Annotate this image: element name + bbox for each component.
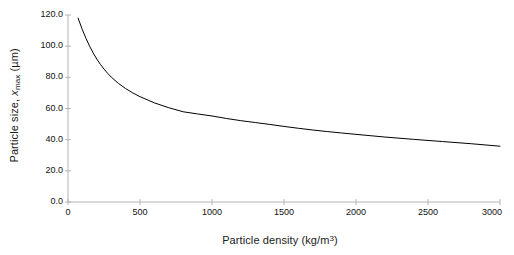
axis-tick-marks: [65, 15, 500, 205]
axis-lines: [68, 15, 500, 202]
x-axis-label: Particle density (kg/m3): [222, 234, 338, 246]
data-series-line: [78, 18, 500, 146]
x-axis-label-text: Particle density (kg/m: [222, 234, 329, 246]
x-axis-label-tail: ): [334, 234, 338, 246]
x-axis-label-container: Particle density (kg/m3): [68, 230, 492, 248]
chart-figure: Particle size, xmax (µm) 0.0 20.0 40.0 6…: [0, 0, 514, 255]
plot-area: [0, 0, 514, 255]
